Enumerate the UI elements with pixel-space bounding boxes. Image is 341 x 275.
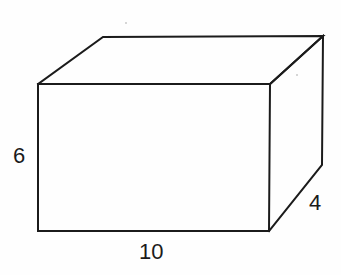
scan-speck [125, 22, 127, 24]
scan-speck [296, 74, 298, 76]
rectangular-prism-drawing [0, 0, 341, 275]
height-dimension-label: 6 [13, 145, 25, 167]
depth-dimension-label: 4 [309, 192, 321, 214]
top-face-path [38, 36, 323, 84]
length-dimension-label: 10 [139, 241, 163, 263]
prism-diagram-canvas: 6 10 4 [0, 0, 341, 275]
front-face-path [38, 84, 270, 231]
